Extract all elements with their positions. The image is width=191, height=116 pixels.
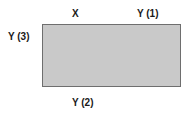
label-y2: Y (2) (72, 97, 94, 108)
label-x: X (72, 8, 79, 19)
label-y1: Y (1) (137, 8, 159, 19)
label-y3: Y (3) (8, 31, 30, 42)
gray-rectangle (42, 24, 181, 87)
